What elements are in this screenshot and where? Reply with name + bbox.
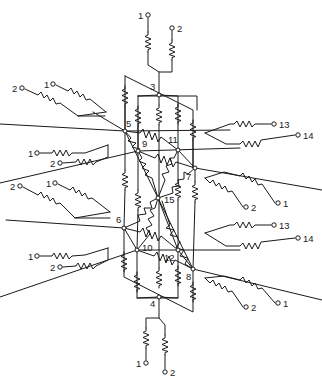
node-label-3: 3 — [150, 81, 155, 92]
node-12 — [176, 248, 180, 252]
node-10 — [135, 248, 139, 252]
node-6 — [122, 226, 126, 230]
terminal-label: 2 — [177, 23, 182, 34]
node-label-4: 4 — [150, 298, 155, 309]
node-7 — [193, 166, 197, 170]
terminal-label: 1 — [283, 298, 288, 309]
terminal-label: 1 — [46, 178, 51, 189]
resistor-network-diagram: 3 4 5 6 9 10 11 12 7 8 15 1 2 2 1 1 2 2 … — [0, 0, 322, 389]
terminal-label: 1 — [136, 358, 141, 369]
terminal-label: 14 — [303, 233, 314, 244]
terminal-label: 13 — [279, 119, 290, 130]
node-label-6: 6 — [116, 214, 121, 225]
node-label-9: 9 — [142, 138, 147, 149]
node-15 — [156, 196, 160, 200]
terminal-label: 2 — [50, 158, 55, 169]
left-branches — [23, 85, 110, 269]
terminal-label: 2 — [12, 83, 17, 94]
node-label-5: 5 — [126, 118, 131, 129]
terminal-label: 2 — [170, 367, 175, 378]
terminals: 1 2 2 1 1 2 2 1 1 2 13 14 1 2 13 14 1 2 … — [10, 10, 314, 378]
node-3 — [157, 93, 161, 97]
node-4 — [157, 295, 161, 299]
node-label-7: 7 — [186, 171, 191, 182]
terminal-label: 1 — [28, 148, 33, 159]
terminal-label: 2 — [251, 302, 256, 313]
node-label-15: 15 — [164, 194, 175, 205]
terminal-label: 2 — [10, 181, 15, 192]
node-11 — [176, 148, 180, 152]
node-5 — [123, 129, 127, 133]
node-8 — [191, 267, 195, 271]
terminal-label: 1 — [28, 251, 33, 262]
node-label-10: 10 — [142, 242, 153, 253]
node-9 — [136, 149, 140, 153]
node-label-11: 11 — [168, 134, 178, 145]
node-label-12: 12 — [164, 252, 175, 263]
terminal-label: 2 — [251, 202, 256, 213]
terminal-label: 2 — [50, 262, 55, 273]
bottom-feed — [143, 297, 168, 369]
terminal-label: 1 — [44, 79, 49, 90]
terminal-label: 1 — [138, 10, 143, 21]
node-label-8: 8 — [186, 271, 191, 282]
terminal-label: 14 — [303, 130, 314, 141]
terminal-label: 1 — [283, 198, 288, 209]
terminal-label: 13 — [279, 220, 290, 231]
